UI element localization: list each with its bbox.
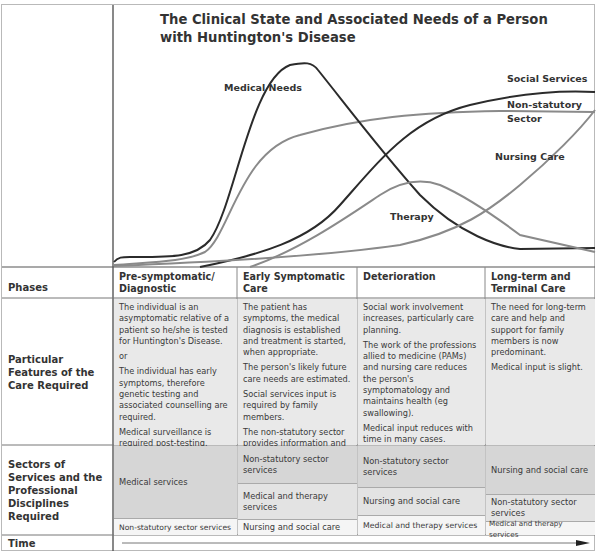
sector-cell: Medical and therapy services bbox=[486, 521, 595, 535]
sector-cell: Medical and therapy services bbox=[238, 483, 357, 519]
sector-cell: Medical and therapy services bbox=[358, 515, 485, 535]
sector-cell: Nursing and social care bbox=[238, 519, 357, 535]
phase-early-symptomatic: Early Symptomatic Care bbox=[238, 268, 357, 298]
features-early-symptomatic: The patient has symptoms, the medical di… bbox=[238, 299, 357, 445]
sector-cell: Nursing and social care bbox=[486, 446, 595, 494]
sector-cell: Nursing and social care bbox=[358, 487, 485, 515]
label-sector: Sector bbox=[507, 113, 542, 124]
sector-cell: Non-statutory sector services bbox=[238, 446, 357, 483]
feature-text: The individual is an asymptomatic relati… bbox=[119, 302, 232, 347]
sector-cell: Medical services bbox=[114, 446, 237, 518]
features-pre-symptomatic: The individual is an asymptomatic relati… bbox=[114, 299, 237, 445]
row-header-features: Particular Features of the Care Required bbox=[2, 299, 113, 445]
row-header-time: Time bbox=[2, 536, 113, 551]
sector-cell: Non-statutory sector services bbox=[114, 518, 237, 535]
feature-text: Social work involvement increases, parti… bbox=[363, 302, 480, 336]
feature-text: The work of the professions allied to me… bbox=[363, 340, 480, 419]
feature-text: The person's likely future care needs ar… bbox=[243, 362, 352, 385]
features-long-term: The need for long-term care and help and… bbox=[486, 299, 595, 445]
feature-text: Medical input is slight. bbox=[491, 362, 590, 373]
feature-text: Medical input reduces with time in many … bbox=[363, 423, 480, 446]
curve-medical-needs bbox=[114, 63, 595, 262]
feature-text: or bbox=[119, 351, 232, 362]
curve-therapy bbox=[250, 182, 595, 267]
label-social-services: Social Services bbox=[507, 73, 587, 84]
feature-text: The individual has early symptoms, there… bbox=[119, 366, 232, 422]
feature-text: Social services input is required by fam… bbox=[243, 389, 352, 423]
feature-text: The patient has symptoms, the medical di… bbox=[243, 302, 352, 358]
time-arrow-icon bbox=[576, 540, 590, 546]
sector-cell: Non-statutory sector services bbox=[358, 446, 485, 487]
phase-pre-symptomatic: Pre-symptomatic/ Diagnostic bbox=[114, 268, 237, 298]
feature-text: The need for long-term care and help and… bbox=[491, 302, 590, 358]
label-medical-needs: Medical Needs bbox=[224, 82, 302, 93]
row-header-sectors: Sectors of Services and the Professional… bbox=[2, 446, 113, 535]
label-non-statutory: Non-statutory bbox=[507, 99, 582, 110]
label-therapy: Therapy bbox=[390, 211, 434, 222]
phase-long-term: Long-term and Terminal Care bbox=[486, 268, 595, 298]
phase-deterioration: Deterioration bbox=[358, 268, 485, 298]
label-nursing-care: Nursing Care bbox=[495, 151, 565, 162]
features-deterioration: Social work involvement increases, parti… bbox=[358, 299, 485, 445]
row-header-phases: Phases bbox=[2, 277, 113, 298]
